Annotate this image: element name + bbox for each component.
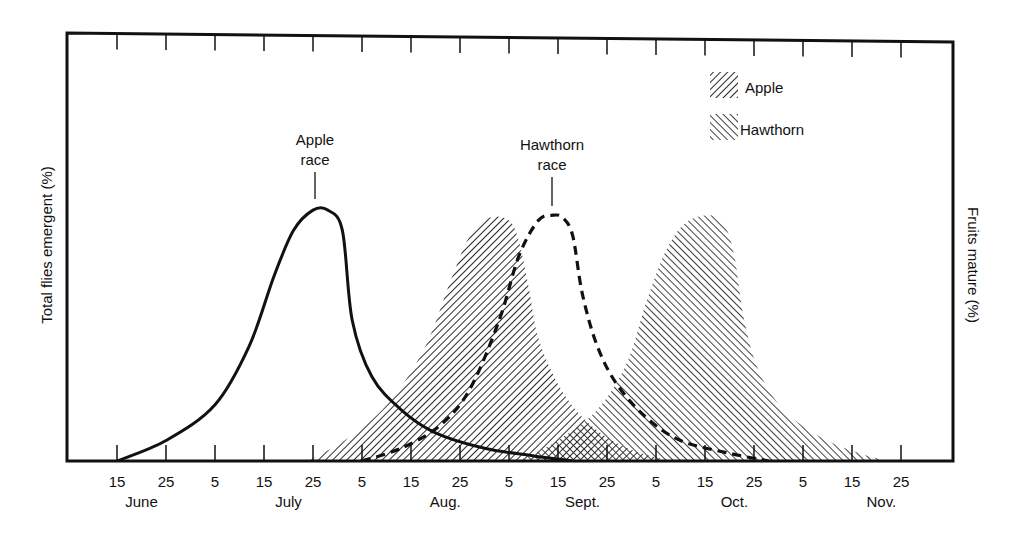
x-tick-label: 15 <box>256 473 273 490</box>
x-tick-label: 25 <box>746 473 763 490</box>
back-hatch-swatch-icon <box>710 114 738 140</box>
x-tick-label: 15 <box>403 473 420 490</box>
annotation-hawthorn-race: Hawthorn race <box>520 136 584 206</box>
x-tick-label: 5 <box>211 473 219 490</box>
month-label: July <box>275 493 302 510</box>
annotation-apple-race-line1: Apple <box>296 131 334 148</box>
x-tick-label: 25 <box>599 473 616 490</box>
x-tick-label: 5 <box>505 473 513 490</box>
x-tick-label: 15 <box>109 473 126 490</box>
x-tick-label: 5 <box>652 473 660 490</box>
x-tick-label: 25 <box>452 473 469 490</box>
legend-item-apple: Apple <box>710 72 783 98</box>
x-tick-label: 5 <box>799 473 807 490</box>
annotation-apple-race: Apple race <box>296 131 334 199</box>
x-tick-label: 25 <box>305 473 322 490</box>
annotation-hawthorn-race-line1: Hawthorn <box>520 136 584 153</box>
legend-label-apple: Apple <box>745 79 783 96</box>
x-tick-labels: 15255152551525515255152551525 <box>109 473 910 490</box>
forward-hatch-swatch-icon <box>710 72 738 98</box>
x-tick-label: 15 <box>844 473 861 490</box>
x-tick-label: 15 <box>550 473 567 490</box>
month-label: Nov. <box>867 493 897 510</box>
x-tick-label: 5 <box>358 473 366 490</box>
annotation-apple-race-line2: race <box>300 151 329 168</box>
x-tick-label: 15 <box>697 473 714 490</box>
month-labels: JuneJulyAug.Sept.Oct.Nov. <box>125 493 896 510</box>
month-label: Oct. <box>721 493 749 510</box>
legend-item-hawthorn: Hawthorn <box>710 114 804 140</box>
legend: Apple Hawthorn <box>710 72 804 140</box>
x-tick-label: 25 <box>158 473 175 490</box>
chart-canvas: 15255152551525515255152551525 JuneJulyAu… <box>0 0 1020 542</box>
legend-label-hawthorn: Hawthorn <box>740 121 804 138</box>
x-tick-label: 25 <box>893 473 910 490</box>
annotation-hawthorn-race-line2: race <box>537 156 566 173</box>
month-label: June <box>125 493 158 510</box>
right-axis-title: Fruits mature (%) <box>965 207 982 323</box>
month-label: Sept. <box>565 493 600 510</box>
fruit-maturation-areas <box>308 215 886 461</box>
left-axis-title: Total flies emergent (%) <box>38 166 55 324</box>
month-label: Aug. <box>430 493 461 510</box>
